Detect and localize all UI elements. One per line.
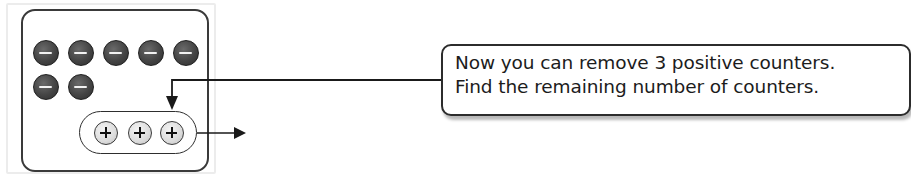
- down-arrow-icon: [166, 96, 178, 110]
- callout-line-2: Find the remaining number of counters.: [455, 75, 909, 99]
- right-arrow-icon: [234, 127, 246, 139]
- instruction-callout: Now you can remove 3 positive counters. …: [441, 44, 911, 116]
- callout-connector-line: [172, 80, 441, 100]
- callout-line-1: Now you can remove 3 positive counters.: [455, 51, 909, 75]
